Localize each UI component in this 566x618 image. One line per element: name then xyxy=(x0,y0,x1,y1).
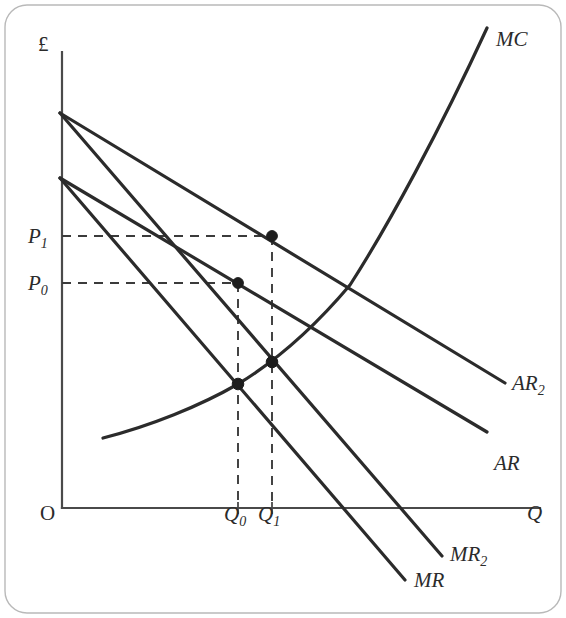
quantity-tick-q0-subscript: 0 xyxy=(239,514,246,529)
price-tick-p1-subscript: 1 xyxy=(41,236,48,251)
price-tick-p0-subscript: 0 xyxy=(41,283,48,298)
quantity-tick-q0-base: Q xyxy=(224,502,239,526)
curve-label-mr: MR xyxy=(413,568,444,592)
curve-label-ar2-subscript: 2 xyxy=(538,383,545,398)
curve-label-ar-base: AR xyxy=(492,451,520,475)
point-p1-q1 xyxy=(267,231,278,242)
economics-diagram-figure: £ Q O P1 P0 Q0 Q1 MC AR2 AR MR2 MR xyxy=(0,0,566,618)
diagram-canvas: £ Q O P1 P0 Q0 Q1 MC AR2 AR MR2 MR xyxy=(0,0,566,618)
price-tick-p0-base: P xyxy=(27,271,41,295)
curve-label-mr2-base: MR xyxy=(449,542,480,566)
quantity-tick-q1-base: Q xyxy=(258,502,273,526)
quantity-tick-q1-subscript: 1 xyxy=(273,514,280,529)
price-tick-p1-base: P xyxy=(27,224,41,248)
curve-label-mr2-subscript: 2 xyxy=(480,554,487,569)
curve-label-ar: AR xyxy=(492,451,520,475)
point-p0-q0 xyxy=(233,278,244,289)
curve-label-mc: MC xyxy=(495,27,528,51)
point-mc-mr2 xyxy=(266,356,278,368)
curve-label-mc-base: MC xyxy=(495,27,528,51)
curve-label-ar2-base: AR xyxy=(510,371,538,395)
y-axis-label: £ xyxy=(38,32,49,56)
x-axis-label: Q xyxy=(527,501,542,525)
origin-label: O xyxy=(40,501,55,525)
point-mc-mr xyxy=(232,378,244,390)
curve-label-mr-base: MR xyxy=(413,568,444,592)
